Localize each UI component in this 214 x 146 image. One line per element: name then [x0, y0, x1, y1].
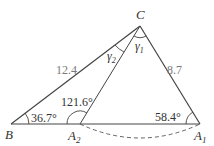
dashed-arc	[80, 124, 200, 138]
side-BC-length: 12.4	[56, 63, 77, 77]
angle-B-label: 36.7°	[31, 111, 57, 125]
side-CA1-length: 8.7	[167, 63, 182, 77]
angle-gamma1-label: γ1	[135, 39, 144, 55]
angle-arc-gamma2	[115, 45, 124, 52]
angle-A1-label: 58.4°	[155, 110, 181, 124]
triangle-diagram: C B A2 A1 12.4 8.7 36.7° 121.6° 58.4° γ1…	[0, 0, 214, 146]
angle-gamma2-label: γ2	[107, 49, 116, 65]
angle-A2-label: 121.6°	[61, 95, 93, 109]
vertex-C-label: C	[136, 7, 145, 22]
vertex-B-label: B	[5, 127, 13, 142]
angle-arc-gamma1	[134, 36, 146, 38]
side-CA2	[80, 26, 140, 124]
angle-arc-A1	[186, 112, 193, 124]
vertex-A1-label: A1	[193, 128, 206, 145]
angle-arc-B	[25, 113, 29, 124]
vertex-A2-label: A2	[67, 128, 81, 145]
